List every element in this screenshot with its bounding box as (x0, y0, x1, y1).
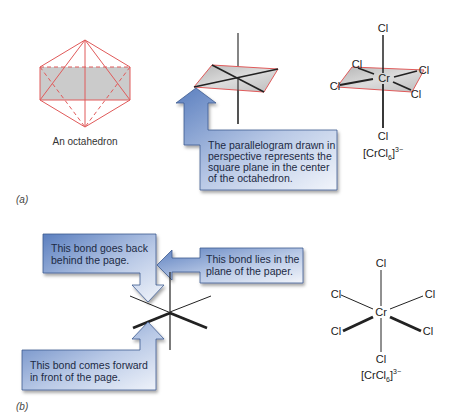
callout-forward-line-1: This bond comes forward (30, 359, 148, 371)
atom-cl-front-right: Cl (411, 88, 421, 100)
complex-formula-b: [CrCl6]3− (361, 368, 401, 383)
callout-behind-line-2: behind the page. (51, 254, 129, 266)
panel-label-a: (a) (16, 194, 28, 205)
atom-cl-lower-right: Cl (423, 325, 433, 337)
atom-cl-bottom: Cl (376, 353, 386, 365)
atom-cl-top: Cl (376, 257, 386, 269)
crcl6-complex-b: Cl Cr Cl Cl Cl Cl Cl [CrCl6]3− (331, 257, 435, 383)
atom-cl-top: Cl (378, 22, 388, 34)
atom-cr: Cr (375, 306, 387, 318)
atom-cl-back-right: Cl (419, 64, 429, 76)
atom-cl-bottom: Cl (378, 130, 388, 142)
atom-cl-upper-left: Cl (331, 288, 341, 300)
formula-base: [CrCl (363, 147, 388, 159)
atom-cl-lower-left: Cl (331, 325, 341, 337)
bond (390, 296, 423, 309)
bond-forward (170, 313, 207, 328)
callout-parallelogram-line-4: of the octahedron. (208, 172, 293, 184)
crcl6-complex-a: Cl Cr Cl Cl Cl Cl Cl [CrCl6]3− (330, 22, 429, 161)
formula-sup: 3− (395, 146, 403, 153)
octahedron-diagram: An octahedron (40, 40, 130, 147)
bond-wedge (343, 317, 373, 331)
bond-wedge (390, 317, 421, 331)
bond (341, 295, 373, 309)
formula-sup: 3− (393, 368, 401, 375)
atom-cl-upper-right: Cl (425, 288, 435, 300)
panel-label-b: (b) (16, 401, 28, 412)
octahedron-caption: An octahedron (52, 136, 117, 147)
figure-canvas: An octahedron The parallelogram drawn in… (0, 0, 454, 415)
callout-behind-line-1: This bond goes back (51, 242, 149, 254)
callout-plane-line-1: This bond lies in the (206, 253, 300, 265)
complex-formula-a: [CrCl6]3− (363, 146, 403, 161)
atom-cl-front-left: Cl (330, 80, 340, 92)
callout-plane-line-2: plane of the paper. (206, 265, 293, 277)
atom-cr: Cr (378, 72, 390, 84)
bond-behind (170, 296, 211, 312)
callout-forward-line-2: in front of the page. (30, 371, 120, 383)
atom-cl-back-left: Cl (352, 58, 362, 70)
formula-base: [CrCl (361, 369, 386, 381)
